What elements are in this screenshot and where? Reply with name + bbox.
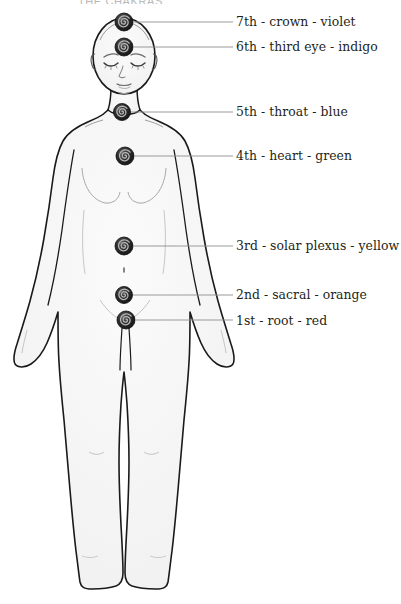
chakra-label-throat: 5th - throat - blue [236,104,348,119]
chakra-marker-crown[interactable] [115,13,133,31]
chakra-label-third-eye: 6th - third eye - indigo [236,39,378,54]
chakra-label-crown: 7th - crown - violet [236,14,356,29]
chakra-highlight [120,290,123,293]
chakra-figure [0,0,401,604]
chakra-label-sacral: 2nd - sacral - orange [236,287,367,302]
chakra-label-heart: 4th - heart - green [236,148,352,163]
chakra-marker-solar-plexus[interactable] [115,237,133,255]
chakra-highlight [120,42,123,45]
chakra-diagram-page: THE CHAKRAS [0,0,401,604]
chakra-marker-third-eye[interactable] [115,38,133,56]
chakra-marker-sacral[interactable] [116,287,133,304]
chakra-marker-throat[interactable] [114,104,131,121]
chakra-highlight [118,107,121,110]
chakra-highlight [120,17,123,20]
chakra-label-root: 1st - root - red [236,313,327,328]
chakra-highlight [122,315,125,318]
chakra-highlight [120,241,123,244]
body-outline-path [14,96,234,589]
chakra-marker-heart[interactable] [116,147,134,165]
chakra-highlight [121,151,124,154]
chakra-marker-root[interactable] [117,311,135,329]
chakra-label-solar-plexus: 3rd - solar plexus - yellow [236,238,399,253]
